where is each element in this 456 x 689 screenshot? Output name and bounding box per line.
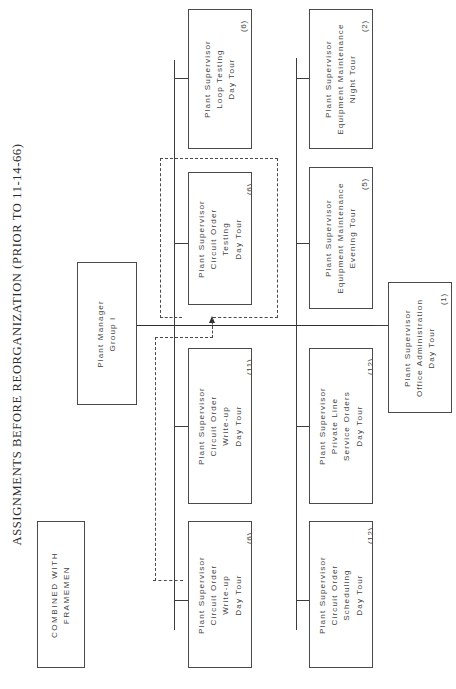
- node-plant-supervisor-circuit-order-scheduling[interactable]: Plant Supervisor Circuit Order Schedulin…: [309, 521, 373, 668]
- node-private-line-count: (12): [366, 358, 373, 375]
- node-plant-supervisor-private-line-service-orders[interactable]: Plant Supervisor Private Line Service Or…: [309, 348, 373, 504]
- spine-left-column: [174, 60, 175, 630]
- node-co-scheduling-label: Plant Supervisor Circuit Order Schedulin…: [317, 556, 366, 634]
- stub-co-scheduling: [296, 600, 309, 601]
- node-office-admin-count: (1): [439, 293, 448, 305]
- node-co-scheduling-count: (12): [366, 527, 373, 544]
- node-plant-manager-label: Plant Manager Group I: [95, 300, 119, 368]
- dashed-group-bottom: [213, 317, 278, 318]
- node-plant-supervisor-circuit-order-write-up-6[interactable]: Plant Supervisor Circuit Order Write-up …: [188, 521, 252, 668]
- stub-co-writeup-11: [174, 426, 188, 427]
- stub-co-writeup-6: [174, 600, 188, 601]
- node-plant-supervisor-equipment-maintenance-night[interactable]: Plant Supervisor Equipment Maintenance N…: [309, 9, 373, 149]
- node-co-testing-count: (6): [245, 183, 252, 195]
- node-co-testing-label: Plant Supervisor Circuit Order Testing D…: [196, 200, 245, 278]
- node-plant-supervisor-circuit-order-write-up-11[interactable]: Plant Supervisor Circuit Order Write-up …: [188, 348, 252, 504]
- node-equip-night-count: (2): [360, 20, 369, 32]
- stub-private-line: [296, 426, 309, 427]
- node-co-writeup-6-count: (6): [245, 532, 252, 544]
- dashed-link-riser: [212, 317, 213, 338]
- node-plant-supervisor-loop-testing[interactable]: Plant Supervisor Loop Testing Day Tour (…: [188, 9, 252, 149]
- node-office-admin-label: Plant Supervisor Office Administration D…: [402, 298, 439, 396]
- dashed-link-from-framemen: [153, 580, 183, 581]
- stub-equip-night: [296, 78, 309, 79]
- node-co-writeup-11-label: Plant Supervisor Circuit Order Write-up …: [196, 387, 245, 465]
- page-title: ASSIGNMENTS BEFORE REORGANIZATION (PRIOR…: [0, 0, 34, 689]
- node-equip-evening-label: Plant Supervisor Equipment Maintenance E…: [323, 182, 360, 293]
- stub-office-admin: [374, 325, 388, 326]
- node-plant-manager-group-1[interactable]: Plant Manager Group I (70): [77, 262, 137, 405]
- page-title-text: ASSIGNMENTS BEFORE REORGANIZATION (PRIOR…: [10, 143, 25, 545]
- stub-equip-evening: [296, 243, 309, 244]
- node-plant-supervisor-equipment-maintenance-evening[interactable]: Plant Supervisor Equipment Maintenance E…: [309, 167, 373, 309]
- node-combined-with-framemen[interactable]: COMBINED WITH FRAMEMEN: [37, 521, 85, 668]
- node-plant-supervisor-office-administration[interactable]: Plant Supervisor Office Administration D…: [388, 282, 452, 413]
- dashed-link-to-arrow: [155, 337, 213, 338]
- node-plant-supervisor-circuit-order-testing[interactable]: Plant Supervisor Circuit Order Testing D…: [188, 172, 252, 305]
- node-loop-testing-label: Plant Supervisor Loop Testing Day Tour: [202, 40, 239, 118]
- dashed-link-vertical: [155, 337, 156, 581]
- dashed-group-left: [160, 158, 161, 318]
- spine-right-column: [296, 58, 297, 630]
- node-loop-testing-count: (6): [239, 20, 248, 32]
- node-co-writeup-11-count: (11): [245, 359, 252, 375]
- node-private-line-label: Plant Supervisor Private Line Service Or…: [317, 387, 366, 465]
- node-co-writeup-6-label: Plant Supervisor Circuit Order Write-up …: [196, 556, 245, 634]
- dashed-group-right: [277, 158, 278, 318]
- stub-loop-testing: [174, 78, 188, 79]
- stub-co-testing: [174, 243, 188, 244]
- trunk-line-main: [137, 325, 375, 327]
- dashed-group-top: [160, 158, 278, 159]
- node-equip-evening-count: (5): [360, 178, 369, 190]
- node-combined-with-framemen-label: COMBINED WITH FRAMEMEN: [49, 551, 73, 637]
- node-equip-night-label: Plant Supervisor Equipment Maintenance N…: [323, 23, 360, 134]
- dashed-group-bottom-left: [160, 317, 182, 318]
